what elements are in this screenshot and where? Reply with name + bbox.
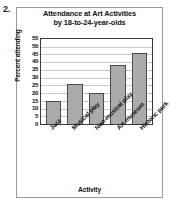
chart-title-line2: by 18-to-24-year-olds [18, 19, 161, 28]
x-axis-tick-labels: JazzMusical playNon-musical playArt muse… [40, 126, 153, 184]
bar-slot [64, 39, 85, 124]
y-tick-0: 0 [35, 121, 38, 127]
chart-title-line1: Attendance at Art Activities [43, 9, 136, 18]
chart-title: Attendance at Art Activities by 18-to-24… [18, 10, 161, 27]
y-tick-55: 55 [32, 35, 38, 41]
y-tick-5: 5 [35, 113, 38, 119]
y-axis-ticks: 5550454035302520151050 [18, 33, 38, 130]
y-tick-20: 20 [32, 90, 38, 96]
bar-slot [43, 39, 64, 124]
y-tick-50: 50 [32, 43, 38, 49]
y-tick-15: 15 [32, 98, 38, 104]
question-number: 2. [3, 4, 10, 14]
y-tick-30: 30 [32, 74, 38, 80]
chart-figure: 2. Attendance at Art Activities by 18-to… [0, 0, 171, 205]
y-tick-35: 35 [32, 66, 38, 72]
y-tick-45: 45 [32, 51, 38, 57]
y-tick-40: 40 [32, 58, 38, 64]
y-tick-10: 10 [32, 105, 38, 111]
x-axis-label: Activity [18, 186, 161, 193]
y-tick-25: 25 [32, 82, 38, 88]
